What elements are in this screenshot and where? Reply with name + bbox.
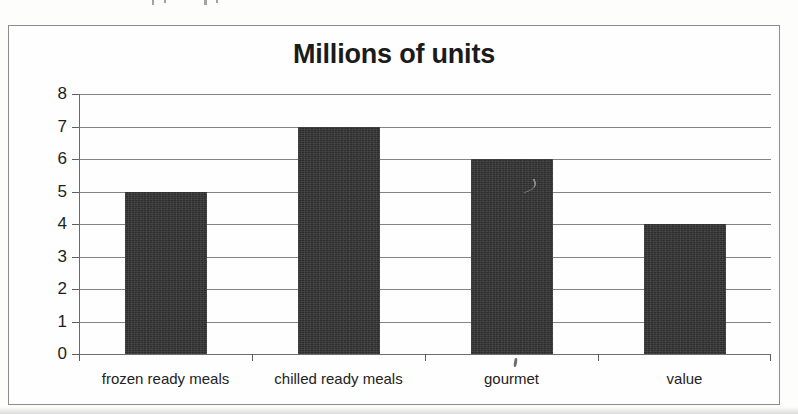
y-axis-tick-label: 0 [58,344,67,364]
bar[interactable] [298,127,380,355]
y-axis-tick-label: 8 [58,84,67,104]
chart-frame: Millions of units 012345678 frozen ready… [8,25,780,405]
x-axis-tick [79,354,80,361]
x-axis-tick [598,354,599,361]
y-axis-tick [72,159,79,160]
y-axis-tick-label: 6 [58,149,67,169]
x-axis-tick-label: gourmet [484,370,539,387]
gridline [79,159,771,160]
y-axis-tick [72,322,79,323]
y-axis-tick [72,289,79,290]
y-axis-tick [72,257,79,258]
gridline [79,94,771,95]
scan-speck [513,358,517,367]
y-axis-tick [72,354,79,355]
x-axis-tick-label: chilled ready meals [274,370,402,387]
gridline [79,127,771,128]
y-axis-tick-label: 7 [58,117,67,137]
y-axis-tick-label: 3 [58,247,67,267]
y-axis-tick [72,127,79,128]
bar[interactable] [644,224,726,354]
x-axis-tick-label: frozen ready meals [102,370,230,387]
scan-crop-artifact [150,0,280,5]
x-axis-tick [770,354,771,361]
y-axis-tick-label: 2 [58,279,67,299]
scanned-page: Millions of units 012345678 frozen ready… [0,0,798,414]
scan-smudge [520,178,539,193]
y-axis-tick [72,192,79,193]
y-axis-tick [72,224,79,225]
chart-title: Millions of units [9,39,779,70]
scan-shadow [0,407,798,414]
y-axis-tick-label: 1 [58,312,67,332]
x-axis-tick [252,354,253,361]
y-axis-tick-label: 5 [58,182,67,202]
y-axis-tick [72,94,79,95]
x-axis-tick-label: value [667,370,703,387]
plot-area: 012345678 [79,94,771,354]
bar[interactable] [471,159,553,354]
bar[interactable] [125,192,207,355]
y-axis-tick-label: 4 [58,214,67,234]
x-axis-tick [425,354,426,361]
